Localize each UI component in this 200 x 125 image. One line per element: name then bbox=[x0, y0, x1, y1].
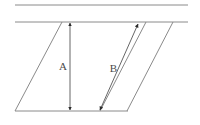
geometry-diagram: A B bbox=[0, 0, 200, 125]
left-slant-line bbox=[15, 22, 62, 111]
slant-label-b: B bbox=[110, 62, 117, 74]
right-slant-line bbox=[127, 22, 173, 111]
height-label-a: A bbox=[59, 60, 67, 72]
diagram-canvas: A B bbox=[0, 0, 200, 125]
middle-slant-line bbox=[100, 22, 146, 111]
slant-double-arrow bbox=[100, 24, 138, 110]
